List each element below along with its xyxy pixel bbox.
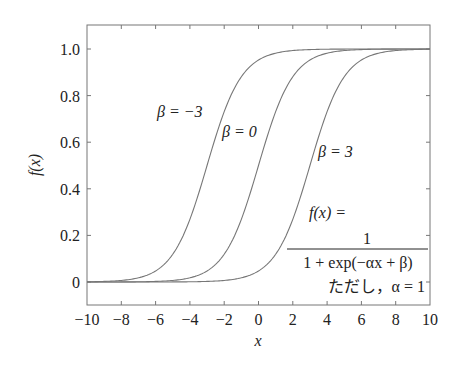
x-tick-label: 6 bbox=[357, 311, 365, 328]
x-tick-label: −8 bbox=[113, 311, 130, 328]
x-axis-label: x bbox=[253, 332, 261, 349]
x-tick-label: 0 bbox=[255, 311, 263, 328]
x-tick-label: −6 bbox=[147, 311, 164, 328]
label-beta-3: β = 3 bbox=[317, 143, 353, 161]
y-tick-label: 0.6 bbox=[60, 134, 80, 151]
x-tick-label: 4 bbox=[323, 311, 331, 328]
y-tick-label: 0.2 bbox=[60, 227, 80, 244]
x-tick-label: 10 bbox=[422, 311, 438, 328]
y-tick-label: 0.4 bbox=[60, 181, 80, 198]
y-tick-label: 0.8 bbox=[60, 88, 80, 105]
formula-numerator: 1 bbox=[363, 230, 371, 247]
formula-note: ただし，α = 1 bbox=[328, 278, 425, 295]
curves bbox=[87, 49, 430, 282]
y-tick-label: 0 bbox=[72, 274, 80, 291]
label-beta-neg3: β = −3 bbox=[156, 103, 203, 121]
x-tick-label: −4 bbox=[181, 311, 198, 328]
x-tick-label: 8 bbox=[392, 311, 400, 328]
y-axis-tick-labels: 00.20.40.60.81.0 bbox=[60, 41, 80, 291]
formula-denominator: 1 + exp(−αx + β) bbox=[303, 254, 412, 272]
formula-lhs: f(x) = bbox=[309, 204, 346, 222]
x-tick-label: −2 bbox=[216, 311, 233, 328]
x-tick-label: 2 bbox=[289, 311, 297, 328]
x-tick-label: −10 bbox=[74, 311, 99, 328]
label-beta-0: β = 0 bbox=[221, 123, 257, 141]
y-tick-label: 1.0 bbox=[60, 41, 80, 58]
x-axis-tick-labels: −10−8−6−4−20246810 bbox=[74, 311, 438, 328]
y-axis-label: f(x) bbox=[26, 154, 44, 176]
curve-β=0 bbox=[87, 49, 430, 282]
sigmoid-chart: −10−8−6−4−20246810 00.20.40.60.81.0 x f(… bbox=[0, 0, 465, 365]
